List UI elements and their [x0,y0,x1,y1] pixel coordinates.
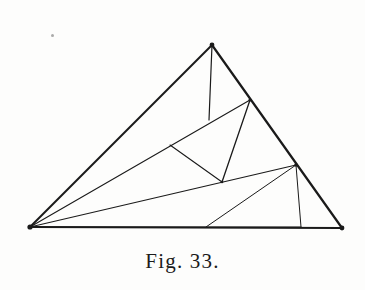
edge-cevian-b-to-e [30,165,296,227]
edge-triangle-side-left [30,45,212,227]
scan-artifact-speck [51,34,54,37]
edge-group [30,45,342,228]
bottom-right-vertex-dot [340,226,345,231]
figure-caption: Fig. 33. [0,249,365,274]
figure-container: Fig. 33. [0,0,365,290]
edge-segment-d-to-g [222,100,250,182]
lower-right-node-dot [294,163,298,167]
center-node-dot [221,181,224,184]
edge-cevian-apex-stub [209,45,212,120]
bottom-left-vertex-dot [27,224,32,229]
edge-segment-e-to-i [296,165,301,227]
edge-segment-e-to-h [206,165,296,227]
apex-vertex-dot [210,43,215,48]
edge-segment-f-to-g [170,145,222,182]
edge-triangle-side-right [212,45,342,228]
edge-cevian-b-to-d [30,100,250,227]
upper-right-node-dot [248,98,251,101]
triangle-diagram [0,0,365,290]
